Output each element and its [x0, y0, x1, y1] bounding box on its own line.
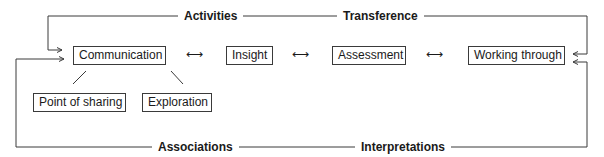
- bidirectional-arrow-icon: ⟷: [186, 48, 203, 60]
- bidirectional-arrow-icon: ⟷: [292, 48, 309, 60]
- loop-label-activities: Activities: [178, 9, 243, 23]
- node-point-of-sharing: Point of sharing: [33, 93, 126, 112]
- node-exploration: Exploration: [142, 93, 212, 112]
- branch-line-point-of-sharing: [73, 71, 86, 84]
- connector-lines: [0, 0, 604, 157]
- loop-label-transference: Transference: [337, 9, 424, 23]
- bidirectional-arrow-icon: ⟷: [426, 48, 443, 60]
- node-communication: Communication: [73, 46, 166, 65]
- branch-line-exploration: [171, 71, 183, 84]
- loop-label-interpretations: Interpretations: [355, 140, 451, 154]
- node-working-through: Working through: [468, 46, 565, 65]
- node-assessment: Assessment: [332, 46, 406, 65]
- node-insight: Insight: [226, 46, 273, 65]
- loop-label-associations: Associations: [152, 140, 239, 154]
